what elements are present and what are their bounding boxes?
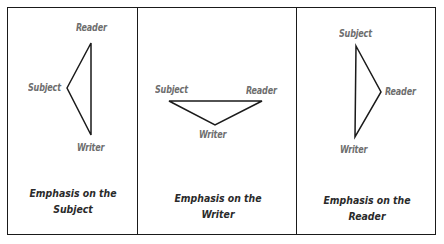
caption-line: Writer bbox=[159, 207, 278, 223]
caption-line: Emphasis on the bbox=[308, 193, 427, 209]
panel2-reader-label: Reader bbox=[246, 84, 277, 96]
panel1-reader-label: Reader bbox=[76, 21, 107, 33]
triangle-emphasis-writer bbox=[169, 101, 262, 125]
panel2-caption: Emphasis on the Writer bbox=[148, 191, 288, 223]
panel2-subject-label: Subject bbox=[155, 83, 188, 95]
caption-line: Reader bbox=[308, 209, 427, 225]
panel3-reader-label: Reader bbox=[385, 85, 416, 97]
caption-line: Emphasis on the bbox=[159, 191, 278, 207]
panel1-subject-label: Subject bbox=[28, 81, 61, 93]
panel2-writer-label: Writer bbox=[199, 128, 226, 140]
caption-line: Emphasis on the bbox=[14, 186, 133, 202]
panel1-writer-label: Writer bbox=[77, 141, 104, 153]
triangle-emphasis-subject bbox=[67, 43, 91, 135]
panel3-caption: Emphasis on the Reader bbox=[297, 193, 437, 225]
panel3-writer-label: Writer bbox=[340, 143, 367, 155]
panel3-subject-label: Subject bbox=[339, 27, 372, 39]
panel1-caption: Emphasis on the Subject bbox=[3, 186, 143, 218]
caption-line: Subject bbox=[14, 202, 133, 218]
triangle-emphasis-reader bbox=[355, 46, 381, 137]
